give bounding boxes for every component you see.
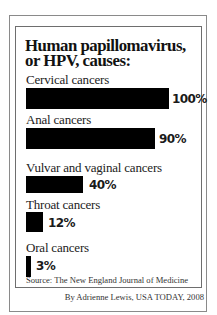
value-label-cervical: 100% <box>172 93 207 105</box>
value-label-anal: 90% <box>159 133 186 145</box>
byline: By Adrienne Lewis, USA TODAY, 2008 <box>65 292 204 302</box>
bar-anal <box>26 128 155 149</box>
bar-vulvar-vaginal <box>26 176 83 193</box>
category-label-throat: Throat cancers <box>26 198 100 211</box>
chart-title: Human papillomavirus, or HPV, causes: <box>25 38 193 68</box>
category-label-oral: Oral cancers <box>26 241 89 254</box>
chart-title-line-2: or HPV, causes: <box>25 53 193 68</box>
category-label-cervical: Cervical cancers <box>26 73 109 86</box>
value-label-vulvar-vaginal: 40% <box>89 179 116 191</box>
category-label-anal: Anal cancers <box>26 113 91 126</box>
value-label-throat: 12% <box>48 217 75 229</box>
category-label-vulvar-vaginal: Vulvar and vaginal cancers <box>26 161 162 174</box>
bar-throat <box>26 212 43 232</box>
value-label-oral: 3% <box>36 260 55 272</box>
bar-oral <box>26 256 31 277</box>
bar-cervical <box>26 88 169 109</box>
source-note: Source: The New England Journal of Medic… <box>26 275 188 285</box>
